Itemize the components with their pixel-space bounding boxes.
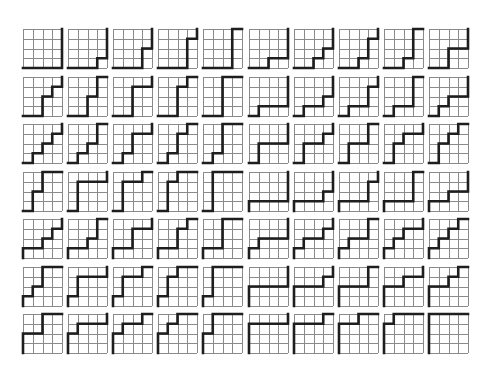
lattice-path-line [429, 77, 468, 116]
lattice-path-diagram [202, 313, 243, 354]
grid-icon [157, 76, 198, 117]
grid-icon [112, 313, 153, 354]
grid-icon [112, 123, 153, 164]
lattice-path-diagram [338, 123, 379, 164]
lattice-path-diagram [67, 76, 108, 117]
lattice-path-diagram [157, 313, 198, 354]
lattice-path-diagram [383, 266, 424, 307]
grid-icon [112, 266, 153, 307]
grid-icon [248, 313, 289, 354]
lattice-path-line [429, 124, 468, 163]
grid-icon [383, 313, 424, 354]
lattice-path-line [203, 314, 242, 353]
grid-icon [22, 266, 63, 307]
grid-icon [157, 123, 198, 164]
grid-icon [383, 123, 424, 164]
lattice-path-line [429, 314, 468, 353]
lattice-path-diagram [293, 123, 334, 164]
lattice-path-diagram [112, 28, 153, 69]
lattice-path-diagram [428, 28, 469, 69]
lattice-path-diagram [157, 76, 198, 117]
lattice-path-diagram [22, 28, 63, 69]
grid-icon [383, 218, 424, 259]
lattice-path-diagram [112, 123, 153, 164]
grid-icon [67, 123, 108, 164]
lattice-path-line [294, 172, 333, 211]
grid-icon [338, 218, 379, 259]
grid-icon [67, 266, 108, 307]
lattice-path-line [23, 29, 62, 68]
grid-icon [202, 123, 243, 164]
lattice-path-line [203, 267, 242, 306]
grid-icon [67, 218, 108, 259]
lattice-path-diagram [112, 76, 153, 117]
lattice-path-line [339, 219, 378, 258]
lattice-path-diagram [338, 218, 379, 259]
lattice-path-diagram [157, 28, 198, 69]
grid-icon [338, 76, 379, 117]
lattice-path-diagram [338, 76, 379, 117]
lattice-path-line [339, 172, 378, 211]
grid-icon [428, 123, 469, 164]
lattice-path-diagram [338, 28, 379, 69]
grid-icon [67, 313, 108, 354]
lattice-path-diagram [202, 266, 243, 307]
lattice-path-line [249, 172, 288, 211]
lattice-path-line [68, 172, 107, 211]
lattice-path-line [249, 314, 288, 353]
lattice-path-diagram [338, 171, 379, 212]
lattice-path-line [429, 29, 468, 68]
lattice-path-line [339, 29, 378, 68]
lattice-path-line [294, 267, 333, 306]
grid-icon [293, 76, 334, 117]
lattice-path-diagram [293, 76, 334, 117]
lattice-path-diagram [67, 171, 108, 212]
lattice-path-diagram [428, 171, 469, 212]
grid-icon [202, 171, 243, 212]
lattice-path-diagram [112, 313, 153, 354]
lattice-path-line [249, 77, 288, 116]
grid-icon [338, 266, 379, 307]
grid-icon [293, 313, 334, 354]
lattice-path-line [249, 219, 288, 258]
lattice-path-diagram [248, 123, 289, 164]
grid-icon [383, 171, 424, 212]
lattice-path-diagram [428, 313, 469, 354]
lattice-path-diagram [293, 218, 334, 259]
lattice-path-line [384, 124, 423, 163]
lattice-path-diagram [293, 171, 334, 212]
lattice-path-line [113, 77, 152, 116]
grid-icon [428, 76, 469, 117]
lattice-path-diagram [202, 218, 243, 259]
lattice-path-line [339, 124, 378, 163]
lattice-path-diagram [157, 171, 198, 212]
grid-icon [428, 313, 469, 354]
grid-icon [338, 171, 379, 212]
grid-icon [293, 123, 334, 164]
lattice-path-diagram [383, 123, 424, 164]
lattice-path-diagram [338, 313, 379, 354]
lattice-path-line [339, 314, 378, 353]
grid-icon [248, 123, 289, 164]
lattice-path-line [384, 267, 423, 306]
lattice-path-diagram [157, 123, 198, 164]
grid-icon [428, 218, 469, 259]
grid-icon [112, 171, 153, 212]
lattice-path-line [384, 172, 423, 211]
lattice-path-figure [0, 0, 491, 374]
grid-icon [22, 313, 63, 354]
lattice-path-diagram [202, 123, 243, 164]
lattice-path-diagram [67, 313, 108, 354]
grid-icon [67, 28, 108, 69]
lattice-path-line [339, 267, 378, 306]
lattice-path-line [384, 77, 423, 116]
grid-icon [22, 171, 63, 212]
lattice-path-line [158, 29, 197, 68]
lattice-path-line [384, 219, 423, 258]
grid-icon [428, 266, 469, 307]
grid-icon [248, 28, 289, 69]
lattice-path-line [68, 29, 107, 68]
lattice-path-diagram [383, 171, 424, 212]
lattice-path-diagram [338, 266, 379, 307]
lattice-path-diagram [248, 313, 289, 354]
